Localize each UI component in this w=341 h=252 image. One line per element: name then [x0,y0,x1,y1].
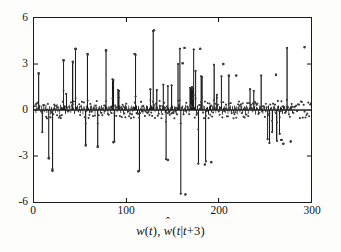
xtick-label-3: 300 [292,205,332,217]
xlabel-paren-close-2: ) [200,224,204,238]
stem-plot-canvas [34,18,311,202]
xlabel-series1: w [136,224,145,238]
chart-figure: 6 3 0 -3 -6 0 100 200 300 w(t), ˆw(t|t+3… [0,0,341,252]
xlabel-comma: , [157,224,164,238]
ytick-label-3: -3 [2,150,28,162]
ytick-label-1: 3 [2,58,28,70]
xtick-label-2: 200 [199,205,239,217]
hat-accent-icon: ˆ [166,217,170,229]
plot-frame [33,17,312,203]
xtick-label-1: 100 [106,205,146,217]
x-axis-label: w(t), ˆw(t|t+3) [0,224,341,239]
ytick-label-2: 0 [2,104,28,116]
xlabel-series2-hatted: ˆw [164,224,173,239]
ytick-label-0: 6 [2,12,28,24]
xtick-label-0: 0 [13,205,53,217]
xlabel-plus: + [187,224,194,238]
